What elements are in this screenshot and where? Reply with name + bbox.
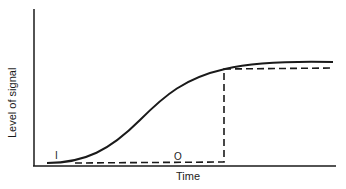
x-axis-label: Time	[176, 170, 200, 182]
curve-label-input: I	[55, 150, 58, 161]
y-axis-label: Level of signal	[6, 58, 20, 138]
diagram-canvas	[0, 0, 346, 189]
curve-output	[75, 68, 333, 163]
curve-label-output: O	[174, 151, 182, 162]
curve-input	[47, 62, 333, 163]
y-axis-label-text: Level of signal	[6, 68, 18, 138]
signal-diagram: Level of signal Time I O	[0, 0, 346, 189]
